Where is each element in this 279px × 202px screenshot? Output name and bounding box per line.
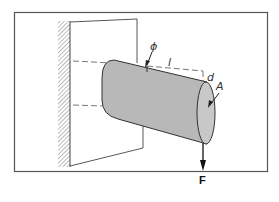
label-cross-section: A (215, 80, 224, 93)
label-force: F (199, 174, 206, 186)
wall-hatching (58, 21, 70, 167)
label-length: l (168, 56, 171, 69)
cylinder-end-face (197, 82, 215, 144)
label-diameter: d (207, 71, 215, 84)
label-phi: ϕ (150, 40, 157, 53)
cantilever-shaft-diagram: ϕ l d A F (0, 0, 279, 202)
